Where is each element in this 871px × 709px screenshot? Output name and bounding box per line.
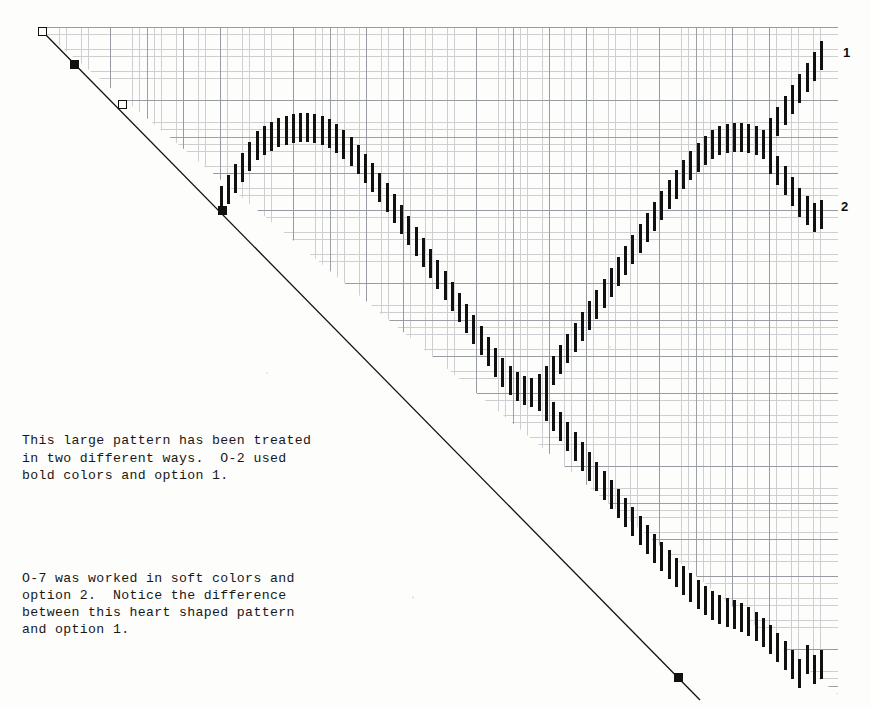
stitch-dash — [313, 114, 316, 143]
stitch-dash — [747, 607, 750, 636]
stitch-dash — [581, 442, 584, 471]
stitch-dash — [393, 194, 396, 223]
stitch-dash — [263, 126, 266, 155]
stitch-dash — [653, 202, 656, 231]
stitch-dash — [660, 542, 663, 571]
stitch-dash — [487, 337, 490, 366]
marker-filled-1 — [70, 60, 79, 69]
stitch-dash — [813, 52, 816, 81]
stitch-dash — [740, 603, 743, 632]
stitch-dash — [682, 160, 685, 189]
stitch-dash — [646, 525, 649, 554]
stitch-dash — [784, 166, 787, 195]
stitch-dash — [357, 145, 360, 174]
stitch-dash — [270, 122, 273, 151]
stitch-dash — [639, 516, 642, 545]
stitch-dash — [610, 480, 613, 509]
stitch-dash — [595, 462, 598, 491]
stitch-dash — [538, 382, 541, 411]
caption-block: This large pattern has been treated in t… — [22, 398, 382, 673]
stitch-dash — [566, 422, 569, 451]
stitch-dash — [378, 173, 381, 202]
stitch-dash — [689, 151, 692, 180]
stitch-dash — [530, 378, 533, 407]
stitch-dash — [501, 358, 504, 387]
stitch-dash — [776, 633, 779, 662]
option-2-label: 2 — [841, 200, 848, 213]
stitch-dash — [581, 312, 584, 341]
stitch-dash — [451, 282, 454, 311]
stitch-dash — [386, 183, 389, 212]
stitch-dash — [718, 126, 721, 155]
stitch-dash — [733, 123, 736, 152]
stitch-dash — [574, 432, 577, 461]
stitch-dash — [559, 412, 562, 441]
stitch-dash — [784, 641, 787, 670]
stitch-dash — [776, 107, 779, 136]
stitch-dash — [321, 116, 324, 145]
stitch-dash — [588, 301, 591, 330]
stitch-dash — [806, 645, 809, 674]
stitch-dash — [552, 356, 555, 385]
stitch-dash — [335, 124, 338, 153]
stitch-dash — [292, 114, 295, 143]
stitch-dash — [747, 124, 750, 153]
stitch-dash — [791, 177, 794, 206]
stitch-dash — [545, 366, 548, 395]
option-1-label: 1 — [843, 46, 850, 59]
stitch-dash — [769, 145, 772, 174]
stitch-dash — [798, 188, 801, 217]
stitch-dash — [407, 216, 410, 245]
stitch-dash — [350, 137, 353, 166]
stitch-dash — [806, 196, 809, 225]
stitch-dash — [299, 113, 302, 142]
stitch-dash — [769, 625, 772, 654]
stitch-dash — [494, 348, 497, 377]
stitch-dash — [227, 175, 230, 204]
stitch-dash — [668, 180, 671, 209]
stitch-dash — [762, 618, 765, 647]
stitch-dash — [755, 612, 758, 641]
stitch-dash — [458, 293, 461, 322]
scan-speck — [609, 346, 611, 348]
stitch-dash — [675, 558, 678, 587]
stitch-dash — [769, 118, 772, 147]
stitch-dash — [465, 304, 468, 333]
stitch-dash — [813, 655, 816, 684]
stitch-dash — [588, 452, 591, 481]
stitch-dash — [285, 116, 288, 145]
stitch-dash — [422, 238, 425, 267]
stitch-dash — [610, 268, 613, 297]
stitch-dash — [791, 650, 794, 679]
stitch-dash — [755, 126, 758, 155]
stitch-dash — [617, 257, 620, 286]
caption-spacer — [22, 518, 382, 535]
stitch-dash — [711, 591, 714, 620]
stitch-dash — [342, 130, 345, 159]
stitch-dash — [689, 573, 692, 602]
stitch-dash — [516, 372, 519, 401]
stitch-dash — [639, 224, 642, 253]
stitch-dash — [241, 153, 244, 182]
stitch-dash — [603, 279, 606, 308]
stitch-dash — [595, 290, 598, 319]
stitch-dash — [545, 392, 548, 421]
stitch-dash — [798, 74, 801, 103]
stitch-dash — [697, 143, 700, 172]
stitch-dash — [697, 580, 700, 609]
stitch-dash — [820, 200, 823, 229]
stitch-dash — [509, 366, 512, 395]
stitch-dash — [813, 203, 816, 232]
stitch-dash — [820, 650, 823, 679]
stitch-dash — [234, 164, 237, 193]
stitch-dash — [415, 227, 418, 256]
stitch-dash — [704, 136, 707, 165]
stitch-dash — [668, 550, 671, 579]
stitch-dash — [248, 142, 251, 171]
stitch-dash — [256, 131, 259, 160]
stitch-dash — [472, 315, 475, 344]
stitch-dash — [646, 213, 649, 242]
stitch-dash — [631, 507, 634, 536]
stitch-dash — [371, 163, 374, 192]
stitch-dash — [523, 376, 526, 405]
